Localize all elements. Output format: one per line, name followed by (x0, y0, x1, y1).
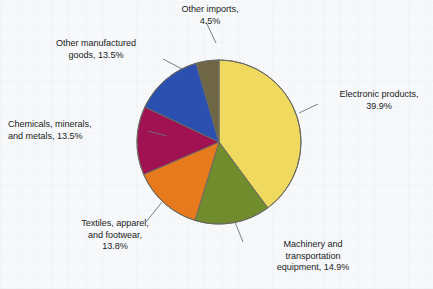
pie-label-chemicals-minerals-metals: Chemicals, minerals, and metals, 13.5% (8, 119, 150, 142)
pie-label-machinery-transportation: Machinery and transportation equipment, … (246, 239, 380, 274)
pie-label-other-manufactured-goods: Other manufactured goods, 13.5% (26, 38, 166, 61)
pie-label-electronic-products: Electronic products, 39.9% (323, 89, 433, 112)
pie-label-textiles-apparel-footwear: Textiles, apparel, and footwear, 13.8% (52, 218, 178, 253)
leader-line-machinery (235, 222, 243, 242)
pie-label-other-imports: Other imports, 4.5% (146, 4, 274, 27)
leader-line-electronic (299, 104, 318, 113)
pie-chart: Other imports, 4.5% Other manufactured g… (0, 0, 433, 289)
